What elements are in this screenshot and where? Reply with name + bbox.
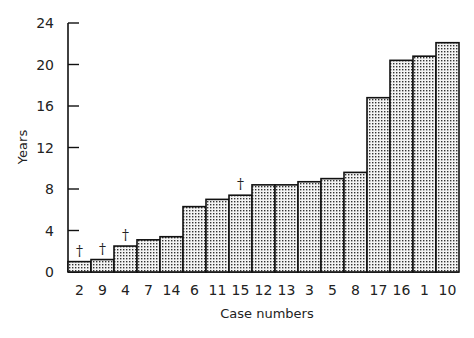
x-tick-label: 3	[305, 282, 314, 298]
x-tick-label: 17	[370, 282, 388, 298]
x-tick-label: 10	[439, 282, 457, 298]
x-tick-label: 15	[232, 282, 250, 298]
bar-case-12	[252, 185, 275, 272]
x-tick-label: 5	[328, 282, 337, 298]
x-tick-label: 11	[209, 282, 227, 298]
bar-case-17	[367, 98, 390, 272]
bar-case-11	[206, 199, 229, 272]
bar-case-7	[137, 240, 160, 272]
dagger-annotation: †	[76, 243, 83, 259]
x-tick-label: 7	[144, 282, 153, 298]
y-tick-label: 8	[45, 181, 54, 197]
x-tick-label: 1	[420, 282, 429, 298]
bar-case-13	[275, 185, 298, 272]
bar-case-1	[413, 56, 436, 272]
y-tick-label: 12	[36, 140, 54, 156]
bar-case-6	[183, 207, 206, 272]
bar-case-14	[160, 237, 183, 272]
bar-case-4	[114, 246, 137, 272]
y-tick-label: 16	[36, 98, 54, 114]
bar-case-8	[344, 172, 367, 272]
bar-case-16	[390, 60, 413, 272]
x-tick-label: 4	[121, 282, 130, 298]
x-tick-label: 16	[393, 282, 411, 298]
y-tick-label: 20	[36, 57, 54, 73]
x-tick-label: 9	[98, 282, 107, 298]
dagger-annotation: †	[99, 241, 106, 257]
bar-case-5	[321, 179, 344, 272]
dagger-annotation: †	[237, 176, 244, 192]
dagger-annotation: †	[122, 227, 129, 243]
x-axis-title: Case numbers	[220, 306, 314, 321]
x-tick-label: 2	[75, 282, 84, 298]
x-tick-label: 12	[255, 282, 273, 298]
bar-chart: 04812162024 2947146111512133581716110†††…	[0, 0, 474, 338]
x-tick-label: 14	[163, 282, 181, 298]
y-axis-title: Years	[15, 130, 30, 166]
bar-case-10	[436, 43, 459, 272]
x-tick-label: 13	[278, 282, 296, 298]
x-tick-label: 6	[190, 282, 199, 298]
y-tick-label: 24	[36, 15, 54, 31]
bar-case-3	[298, 182, 321, 272]
bar-case-2	[68, 262, 91, 272]
bar-case-9	[91, 260, 114, 272]
bar-case-15	[229, 195, 252, 272]
y-tick-label: 0	[45, 264, 54, 280]
x-tick-label: 8	[351, 282, 360, 298]
y-tick-label: 4	[45, 223, 54, 239]
